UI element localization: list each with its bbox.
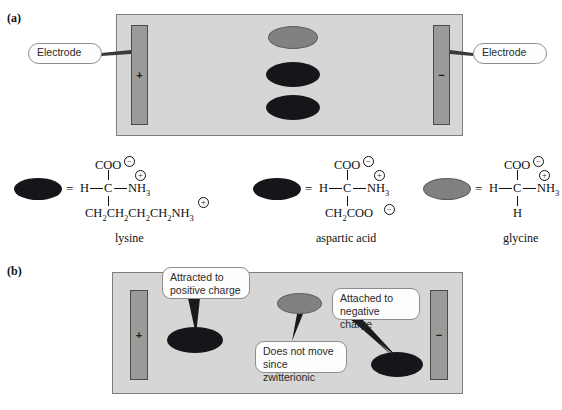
molecule-name-aspartic: aspartic acid: [316, 231, 376, 246]
panel-a-label: (a): [7, 11, 21, 26]
callout-attached-line1: Attached to: [340, 292, 412, 305]
structure-nh3-aspartic: NH3: [367, 181, 389, 198]
structure-h-aspartic: H: [319, 181, 328, 196]
structure-c-lysine: C: [104, 181, 112, 196]
bond-c-n-lysine: [114, 188, 127, 189]
bond-h-c-aspartic: [329, 188, 342, 189]
blob-glycine-b: [277, 293, 322, 314]
charge-plus-nh3-glycine: +: [539, 170, 550, 181]
structure-blob-glycine: [423, 178, 471, 200]
structure-coo-glycine: COO: [504, 158, 530, 173]
structure-coo-aspartic: COO: [334, 158, 360, 173]
charge-minus-coo-aspartic: −: [363, 156, 374, 167]
structure-sidechain-lysine: CH2CH2CH2CH2NH3: [85, 206, 194, 223]
structure-nh3-lysine: NH3: [128, 181, 150, 198]
callout-nomove-line2: since zwitterionic: [263, 358, 339, 384]
bond-h-c-lysine: [90, 188, 103, 189]
callout-attracted-line1: Attracted to: [170, 271, 242, 284]
structure-h-glycine: H: [489, 181, 498, 196]
molecule-name-glycine: glycine: [503, 231, 538, 246]
electrode-negative-b: −: [430, 290, 448, 380]
electrode-positive-a: +: [131, 25, 148, 125]
charge-plus-sidechain-lysine: +: [198, 197, 209, 208]
electrode-negative-sign-b: −: [431, 330, 447, 341]
structure-c-glycine: C: [513, 181, 521, 196]
structure-nh3-glycine: NH3: [537, 181, 559, 198]
callout-nomove-line1: Does not move: [263, 345, 339, 358]
charge-plus-nh3-lysine: +: [135, 170, 146, 181]
bond-c-sidechain-glycine: [517, 196, 518, 206]
blob-lysine-a: [266, 62, 320, 87]
charge-minus-coo-lysine: −: [124, 156, 135, 167]
electrode-negative-a: −: [433, 25, 450, 125]
structure-equals-aspartic: =: [305, 181, 312, 197]
structure-sidechain-glycine: H: [513, 206, 522, 221]
bond-h-c-glycine: [499, 188, 512, 189]
bond-c-n-aspartic: [353, 188, 366, 189]
charge-minus-sidechain-aspartic: −: [384, 204, 395, 215]
callout-attracted-line2: positive charge: [170, 284, 242, 297]
electrode-positive-b: +: [130, 290, 148, 380]
molecule-name-lysine: lysine: [115, 231, 144, 246]
structure-coo-lysine: COO: [95, 158, 121, 173]
callout-electrode-left: Electrode: [28, 43, 102, 64]
blob-aspartic-a: [266, 95, 320, 120]
electrode-negative-sign-a: −: [434, 70, 449, 81]
bond-c-chain-lysine: [108, 196, 109, 206]
callout-electrode-right: Electrode: [473, 43, 547, 64]
structure-c-aspartic: C: [343, 181, 351, 196]
panel-b-label: (b): [7, 264, 22, 279]
blob-glycine-a: [268, 26, 318, 49]
structure-h-lysine: H: [80, 181, 89, 196]
blob-lysine-b: [167, 327, 223, 353]
blob-aspartic-b: [371, 352, 423, 377]
electrode-positive-sign-b: +: [131, 330, 147, 341]
structure-blob-aspartic: [253, 178, 301, 200]
callout-does-not-move: Does not move since zwitterionic: [255, 341, 347, 373]
structure-equals-glycine: =: [475, 181, 482, 197]
charge-minus-coo-glycine: −: [533, 156, 544, 167]
structure-sidechain-aspartic: CH2COO: [325, 206, 373, 223]
callout-attracted-positive: Attracted to positive charge: [162, 267, 250, 299]
electrode-positive-sign-a: +: [132, 70, 147, 81]
bond-c-n-glycine: [523, 188, 536, 189]
structure-blob-lysine: [14, 178, 62, 200]
callout-attached-negative: Attached to negative charge: [332, 288, 420, 320]
bond-c-chain-aspartic: [347, 196, 348, 206]
structure-equals-lysine: =: [66, 181, 73, 197]
charge-plus-nh3-aspartic: +: [374, 170, 385, 181]
callout-attached-line2: negative charge: [340, 305, 412, 331]
